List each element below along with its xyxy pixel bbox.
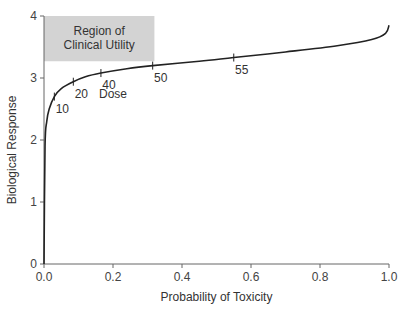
region-label-line1: Region of <box>74 24 126 38</box>
dose-label-55: 55 <box>235 63 249 77</box>
x-axis-title: Probability of Toxicity <box>161 290 273 304</box>
dose-label-20: 20 <box>75 87 89 101</box>
y-tick-label: 3 <box>30 71 37 85</box>
labels: Dose <box>99 87 127 101</box>
x-tick-label: 1.0 <box>381 270 398 284</box>
dose-markers: 1020405055 <box>54 54 248 116</box>
y-axis-title: Biological Response <box>5 95 19 204</box>
x-tick-label: 0.4 <box>174 270 191 284</box>
y-tick-label: 1 <box>30 195 37 209</box>
x-tick-label: 0.0 <box>36 270 53 284</box>
clinical-utility-region: Region ofClinical Utility <box>44 16 154 61</box>
dose-label-10: 10 <box>56 102 70 116</box>
dose-label-50: 50 <box>154 71 168 85</box>
y-tick-label: 4 <box>30 9 37 23</box>
dose-annotation: Dose <box>99 87 127 101</box>
x-tick-label: 0.2 <box>105 270 122 284</box>
x-tick-label: 0.6 <box>243 270 260 284</box>
y-tick-label: 2 <box>30 133 37 147</box>
y-tick-label: 0 <box>30 257 37 271</box>
chart-canvas: Region ofClinical Utility 0.00.20.40.60.… <box>0 0 410 313</box>
x-tick-label: 0.8 <box>312 270 329 284</box>
region-label-line2: Clinical Utility <box>64 38 135 52</box>
